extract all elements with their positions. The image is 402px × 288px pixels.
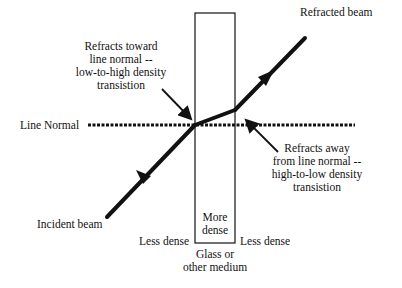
glass-medium-box (195, 13, 235, 243)
medium-label: Glass or other medium (168, 248, 262, 274)
less-dense-left-label: Less dense (139, 235, 189, 248)
less-dense-right-label: Less dense (240, 235, 290, 248)
refracted-beam-label: Refracted beam (300, 6, 372, 19)
toward-normal-pointer (162, 89, 190, 118)
internal-beam-line (195, 110, 235, 125)
incident-beam-line (107, 125, 195, 217)
toward-normal-label: Refracts toward line normal -- low-to-hi… (66, 40, 176, 92)
line-normal-label: Line Normal (20, 119, 79, 132)
incident-beam-label: Incident beam (37, 218, 102, 231)
away-normal-label: Refracts away from line normal -- high-t… (266, 142, 368, 194)
more-dense-label: More dense (197, 211, 233, 237)
